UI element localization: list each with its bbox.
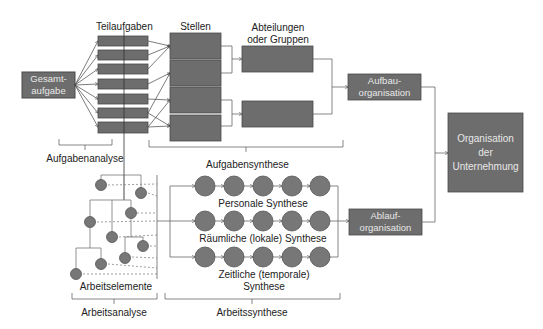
- abteilungen-line1: Abteilungen: [238, 22, 318, 34]
- aufbau-line1: Aufbau-: [368, 75, 401, 87]
- stelle-box: [170, 60, 221, 86]
- teilaufgabe-box: [98, 108, 148, 118]
- personale-synthese-node: [282, 176, 302, 196]
- teilaufgabe-box: [98, 94, 148, 104]
- teilaufgabe-box: [98, 64, 148, 74]
- arbeitselement-node: [71, 269, 82, 280]
- teilaufgabe-box: [98, 122, 148, 133]
- raeumliche-synthese-node: [195, 211, 215, 231]
- zeitliche-line2: Synthese: [206, 281, 322, 293]
- zeitliche-synthese-label: Zeitliche (temporale) Synthese: [206, 269, 322, 293]
- arbeitselement-node: [126, 208, 137, 219]
- organisation-line3: Unternehmung: [452, 160, 518, 174]
- gesamtaufgabe-line2: aufgabe: [31, 85, 65, 97]
- stellen-boxes: [170, 33, 221, 141]
- to-organisation-connectors: [421, 87, 448, 222]
- arbeitselemente-label: Arbeitselemente: [78, 281, 154, 293]
- zeitliche-synthese-node: [224, 247, 244, 267]
- abteilungen-to-aufbau-connectors: [313, 59, 348, 114]
- abteilung-box-2: [242, 101, 313, 127]
- teilaufgaben-boxes: [98, 36, 148, 133]
- arbeitselement-node: [120, 253, 131, 264]
- raeumliche-synthese-node: [282, 211, 302, 231]
- ablauforganisation-label: Ablauf- organisation: [349, 209, 422, 235]
- gesamtaufgabe-label: Gesamt- aufgabe: [22, 72, 75, 98]
- stelle-box: [170, 115, 221, 141]
- analysis-arrows: [75, 41, 98, 127]
- stellen-to-abteilungen-connectors: [221, 46, 242, 126]
- arbeitssynthese-bracket: [165, 293, 340, 304]
- personale-synthese-label: Personale Synthese: [213, 198, 313, 210]
- arbeitselement-node: [96, 180, 107, 191]
- arbeitssynthese-label: Arbeitssynthese: [214, 307, 290, 319]
- personale-synthese-node: [310, 176, 330, 196]
- synthesis-circles: [195, 176, 330, 267]
- teilaufgabe-box: [98, 79, 148, 89]
- teilaufgabe-box: [98, 36, 148, 46]
- stellen-heading: Stellen: [170, 21, 221, 33]
- arbeitsanalyse-bracket: [72, 293, 157, 304]
- zeitliche-line1: Zeitliche (temporale): [206, 269, 322, 281]
- personale-synthese-node: [195, 176, 215, 196]
- arbeitselement-node: [96, 259, 107, 270]
- abteilungen-heading: Abteilungen oder Gruppen: [238, 22, 318, 46]
- zeitliche-synthese-node: [282, 247, 302, 267]
- gesamtaufgabe-line1: Gesamt-: [30, 73, 66, 85]
- aufgabensynthese-label: Aufgabensynthese: [206, 159, 286, 171]
- abteilung-box-1: [242, 46, 313, 72]
- ablauf-line2: organisation: [360, 222, 412, 234]
- teilaufgabe-box: [98, 50, 148, 60]
- teilaufgaben-to-stellen-arrows: [148, 41, 170, 127]
- arbeitselemente-circles: [71, 180, 149, 280]
- organisation-line1: Organisation: [457, 132, 514, 146]
- organisation-line2: der: [478, 146, 492, 160]
- arbeitselement-node: [136, 188, 147, 199]
- stelle-box: [170, 87, 221, 113]
- arbeitsanalyse-label: Arbeitsanalyse: [76, 307, 152, 319]
- personale-synthese-node: [224, 176, 244, 196]
- aufgabenanalyse-bracket: [59, 139, 112, 150]
- ablauf-line1: Ablauf-: [370, 210, 400, 222]
- stelle-box: [170, 33, 221, 59]
- raeumliche-synthese-node: [253, 211, 273, 231]
- zeitliche-synthese-node: [253, 247, 273, 267]
- aufbauorganisation-label: Aufbau- organisation: [348, 74, 421, 100]
- teilaufgaben-heading: Teilaufgaben: [96, 21, 152, 33]
- aufbau-line2: organisation: [359, 87, 411, 99]
- aufgabensynthese-bracket: [149, 140, 343, 152]
- abteilungen-line2: oder Gruppen: [238, 34, 318, 46]
- personale-synthese-node: [253, 176, 273, 196]
- zeitliche-synthese-node: [195, 247, 215, 267]
- raeumliche-synthese-node: [310, 211, 330, 231]
- arbeitselement-node: [138, 241, 149, 252]
- aufgabenanalyse-label: Aufgabenanalyse: [45, 153, 125, 165]
- arbeitselement-node: [85, 217, 96, 228]
- raeumliche-synthese-node: [224, 211, 244, 231]
- zeitliche-synthese-node: [310, 247, 330, 267]
- raeumliche-synthese-label: Räumliche (lokale) Synthese: [196, 233, 330, 245]
- arbeitselement-node: [107, 232, 118, 243]
- organisation-label: Organisation der Unternehmung: [448, 113, 523, 192]
